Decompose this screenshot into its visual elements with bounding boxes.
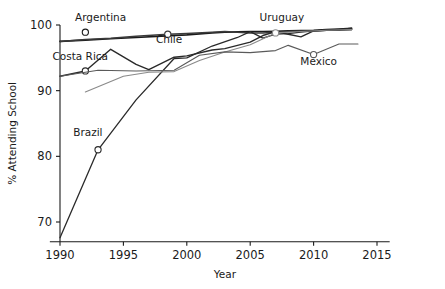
series-marker-uruguay [272, 30, 278, 36]
series-label-mexico: Mexico [300, 55, 337, 67]
series-marker-brazil [95, 147, 101, 153]
series-label-chile: Chile [156, 33, 182, 45]
series-label-uruguay: Uruguay [260, 11, 305, 23]
line-chart-figure: 199019952000200520102015708090100Year% A… [0, 0, 445, 289]
x-tick-label: 2000 [172, 248, 201, 262]
y-tick-label: 80 [37, 149, 52, 163]
y-tick-label: 100 [30, 18, 52, 32]
chart-canvas: 199019952000200520102015708090100Year% A… [0, 0, 445, 289]
series-label-brazil: Brazil [73, 126, 102, 138]
x-tick-label: 2010 [299, 248, 328, 262]
x-tick-label: 2015 [362, 248, 391, 262]
series-marker-argentina [82, 29, 88, 35]
y-tick-label: 70 [37, 215, 52, 229]
x-tick-label: 1995 [109, 248, 138, 262]
x-tick-label: 2005 [236, 248, 265, 262]
x-axis-title: Year [213, 268, 237, 280]
y-tick-label: 90 [37, 84, 52, 98]
y-axis-title: % Attending School [6, 82, 18, 185]
series-label-costa-rica: Costa Rica [53, 50, 109, 62]
series-label-argentina: Argentina [75, 11, 126, 23]
x-tick-label: 1990 [45, 248, 74, 262]
